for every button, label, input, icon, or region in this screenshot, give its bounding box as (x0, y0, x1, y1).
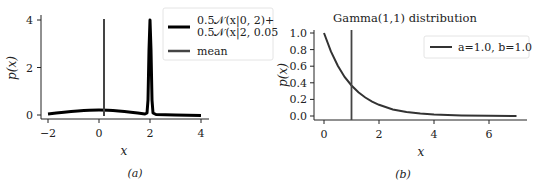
panel-a-ytick-label: 2 (26, 62, 33, 75)
panel-a-xtick-label: 2 (147, 127, 154, 140)
panel-a-ytick-label: 4 (26, 14, 33, 27)
panel-b-ytick-label: 0.6 (290, 60, 308, 73)
panel-a: 0 2 4 −2 0 2 4 x p(x) 0.5𝒩(x|0, 2)+ 0.5𝒩… (5, 8, 278, 180)
panel-a-xtick-label: −2 (40, 127, 56, 140)
panel-b-ytick-label: 0.8 (290, 44, 308, 57)
panel-b: Gamma(1,1) distribution 0.0 0.2 0.4 0.6 … (276, 11, 532, 181)
panel-b-ytick-label: 1.0 (290, 27, 308, 40)
panel-a-legend: 0.5𝒩(x|0, 2)+ 0.5𝒩(x|2, 0.05 mean (163, 8, 278, 60)
panel-b-xtick-label: 6 (486, 128, 493, 141)
panel-a-xlabel: x (121, 144, 128, 158)
panel-a-ylabel: p(x) (5, 56, 19, 80)
panel-b-xtick-label: 4 (431, 128, 438, 141)
panel-a-ytick-label: 0 (26, 109, 33, 122)
panel-b-ytick-label: 0.2 (290, 93, 308, 106)
legend-mean: mean (197, 45, 228, 58)
panel-b-xtick-label: 0 (321, 128, 328, 141)
panel-b-ylabel: p(x) (276, 63, 290, 87)
panel-a-xtick-label: 4 (198, 127, 205, 140)
figure: 0 2 4 −2 0 2 4 x p(x) 0.5𝒩(x|0, 2)+ 0.5𝒩… (0, 0, 537, 188)
panel-b-legend: a=1.0, b=1.0 (424, 36, 532, 58)
panel-b-title: Gamma(1,1) distribution (333, 11, 477, 25)
panel-b-xtick-label: 2 (376, 128, 383, 141)
legend-gamma: a=1.0, b=1.0 (458, 41, 532, 54)
panel-b-caption: (b) (395, 168, 411, 181)
panel-a-xtick-label: 0 (96, 127, 103, 140)
panel-a-caption: (a) (127, 167, 142, 180)
panel-b-ytick-label: 0.4 (290, 77, 308, 90)
panel-b-ytick-label: 0.0 (290, 110, 308, 123)
legend-mixture-line2: 0.5𝒩(x|2, 0.05 (197, 26, 278, 40)
panel-b-xlabel: x (418, 145, 425, 159)
